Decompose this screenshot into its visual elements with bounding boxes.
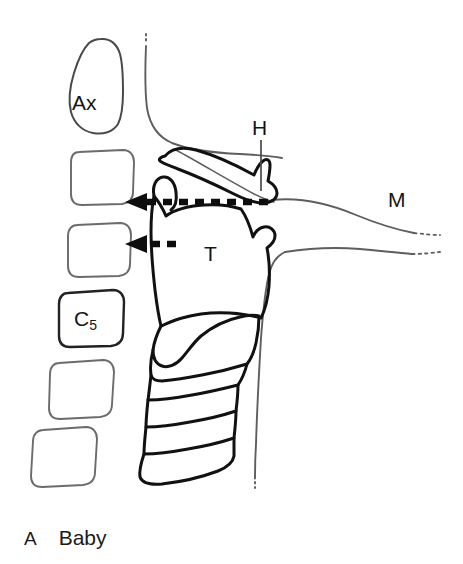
figure-caption: A Baby xyxy=(24,526,107,550)
caption-panel-letter: A xyxy=(24,528,37,550)
tracheal-ring-4 xyxy=(140,438,234,484)
measurement-annotations xyxy=(125,140,268,253)
axis-vertebra-outline xyxy=(70,39,123,134)
label-axis-vertebra: Ax xyxy=(72,92,97,113)
label-c5-base: C xyxy=(74,307,89,330)
cervical-vertebra-c6-outline xyxy=(49,360,114,419)
label-c5-subscript: 5 xyxy=(89,317,97,333)
mandible-lower-dotted-tail xyxy=(412,252,440,254)
upper-measurement-arrowhead xyxy=(125,193,147,211)
label-cervical-five: C5 xyxy=(74,308,97,332)
larynx-lateral-drawing xyxy=(0,0,463,564)
tracheal-ring-2 xyxy=(146,385,238,427)
cervical-vertebra-c7-outline xyxy=(31,427,97,487)
label-thyroid-cartilage: T xyxy=(204,243,217,264)
tracheal-ring-3 xyxy=(144,411,236,454)
lower-measurement-arrowhead xyxy=(125,235,147,253)
soft-tissue-contours xyxy=(145,34,440,488)
caption-panel-title: Baby xyxy=(59,526,107,550)
label-mandible: M xyxy=(388,189,406,210)
cervical-vertebra-c4-outline xyxy=(68,223,131,277)
thyroid-inferior-horn xyxy=(153,326,161,350)
anatomical-figure: Ax C5 H T M A Baby xyxy=(0,0,463,564)
mandible-lower-line xyxy=(285,248,412,254)
mandible-upper-dotted-tail xyxy=(414,233,440,235)
cricoid-outline xyxy=(151,315,259,381)
label-hyoid: H xyxy=(252,117,267,138)
cricoid-and-trachea xyxy=(140,315,259,484)
floor-of-mouth-line xyxy=(176,150,274,202)
cervical-vertebra-c3-outline xyxy=(71,150,134,205)
